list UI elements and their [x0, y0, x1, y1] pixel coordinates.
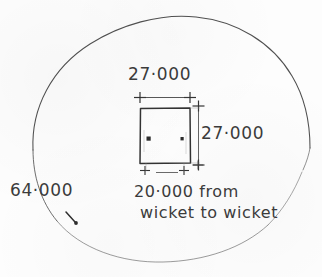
boundary-radius-label: 64·000 [10, 180, 73, 200]
top-width-label: 27·000 [128, 64, 191, 84]
top-width-dimension [134, 92, 196, 103]
wicket-mark-right [181, 137, 184, 140]
right-height-label: 27·000 [201, 123, 264, 143]
sketch-drawing-canvas [0, 0, 322, 277]
pitch-length-label-line2: wicket to wicket [140, 203, 278, 222]
pitch-length-label-line1: 20·000 from [134, 182, 239, 201]
boundary-circle-right-arc-segment [303, 148, 310, 170]
cricket-ground-sketch: 27·000 27·000 64·000 20·000 from wicket … [0, 0, 322, 277]
boundary-radius-tick [66, 212, 78, 225]
pitch-square [140, 108, 191, 164]
wicket-mark-left [147, 137, 151, 141]
boundary-circle-bottom-arc [57, 221, 268, 262]
